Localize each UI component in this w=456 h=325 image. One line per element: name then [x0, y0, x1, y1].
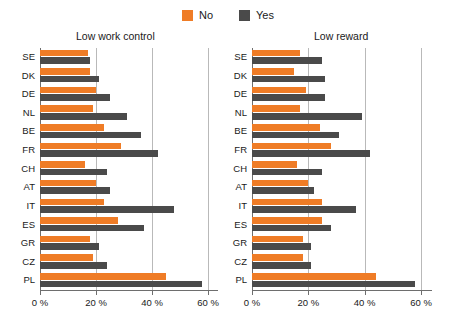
bar-group: DE [252, 85, 421, 104]
bar-group: FR [40, 141, 208, 160]
category-label: SE [234, 51, 247, 62]
bar-no [40, 236, 90, 243]
bar-yes [252, 169, 322, 176]
bar-group: PL [40, 271, 208, 290]
bar-yes [40, 225, 144, 232]
bar-yes [252, 225, 331, 232]
category-label: DE [22, 88, 35, 99]
bar-group: ES [252, 216, 421, 235]
panel-low-work-control: Low work control SEDKDENLBEFRCHATITESGRC… [0, 30, 220, 320]
tick-mark-20 [308, 290, 309, 295]
tick-mark-0 [252, 290, 253, 295]
category-label: DE [234, 88, 247, 99]
tick-mark-0 [40, 290, 41, 295]
bar-yes [252, 150, 370, 157]
category-label: CH [21, 163, 35, 174]
category-label: PL [235, 274, 247, 285]
bar-yes [40, 206, 174, 213]
bar-no [40, 50, 88, 57]
bar-no [40, 124, 104, 131]
figure: No Yes Low work control SEDKDENLBEFRCHAT… [0, 0, 456, 325]
bar-no [252, 161, 297, 168]
tick-mark-20 [96, 290, 97, 295]
tick-label-60: 60 % [410, 297, 432, 308]
bar-group: AT [40, 178, 208, 197]
bar-group: SE [40, 48, 208, 67]
bar-group: DK [40, 67, 208, 86]
bar-yes [40, 132, 141, 139]
bar-group: CH [252, 160, 421, 179]
chart-legend: No Yes [0, 10, 456, 21]
bar-yes [40, 187, 110, 194]
bar-yes [40, 76, 99, 83]
bar-no [252, 105, 300, 112]
bar-yes [252, 113, 362, 120]
bar-no [40, 199, 104, 206]
bar-no [40, 68, 90, 75]
tick-mark-60 [421, 290, 422, 295]
category-label: CZ [22, 256, 35, 267]
bar-group: SE [252, 48, 421, 67]
bar-group: IT [252, 197, 421, 216]
bar-no [40, 87, 96, 94]
bar-group: FR [252, 141, 421, 160]
legend-swatch-no [182, 10, 193, 21]
x-axis-line-right [252, 290, 432, 291]
category-label: DK [234, 70, 247, 81]
bar-no [252, 236, 303, 243]
bar-no [252, 254, 303, 261]
bar-no [40, 105, 93, 112]
bar-yes [40, 243, 99, 250]
bar-yes [252, 281, 415, 288]
bar-yes [40, 281, 202, 288]
gridline-60 [208, 48, 209, 290]
bar-group: GR [40, 234, 208, 253]
bar-yes [40, 113, 127, 120]
bar-group: ES [40, 216, 208, 235]
panel-title-low-work-control: Low work control [76, 30, 155, 42]
bar-group: NL [252, 104, 421, 123]
tick-label-40: 40 % [354, 297, 376, 308]
bar-group: CZ [40, 253, 208, 272]
category-label: BE [22, 125, 35, 136]
category-label: AT [236, 181, 247, 192]
panel-low-reward: Low reward SEDKDENLBEFRCHATITESGRCZPL 0 … [214, 30, 456, 320]
bar-yes [252, 132, 339, 139]
category-label: CZ [234, 256, 247, 267]
category-label: AT [24, 181, 35, 192]
bar-yes [252, 187, 314, 194]
bar-yes [252, 76, 325, 83]
bar-yes [252, 243, 311, 250]
bar-no [252, 217, 322, 224]
bar-group: CH [40, 160, 208, 179]
bar-yes [40, 169, 107, 176]
bar-yes [40, 150, 158, 157]
bar-group: AT [252, 178, 421, 197]
gridline-60 [421, 48, 422, 290]
bar-yes [252, 94, 325, 101]
bar-group: BE [252, 122, 421, 141]
category-label: FR [22, 144, 35, 155]
category-label: BE [234, 125, 247, 136]
bar-group: CZ [252, 253, 421, 272]
bar-yes [40, 94, 110, 101]
category-label: NL [23, 107, 35, 118]
bar-no [40, 180, 96, 187]
category-label: PL [23, 274, 35, 285]
bar-group: NL [40, 104, 208, 123]
bar-yes [252, 206, 356, 213]
bar-yes [252, 262, 311, 269]
bar-group: BE [40, 122, 208, 141]
category-label: CH [233, 163, 247, 174]
bar-no [252, 50, 300, 57]
bar-group: GR [252, 234, 421, 253]
category-label: ES [22, 219, 35, 230]
tick-label-20: 20 % [85, 297, 107, 308]
legend-swatch-yes [239, 10, 250, 21]
bar-no [40, 143, 121, 150]
bar-no [40, 217, 118, 224]
tick-mark-40 [365, 290, 366, 295]
legend-entry-no: No [182, 10, 213, 21]
bar-no [252, 87, 306, 94]
tick-mark-40 [152, 290, 153, 295]
